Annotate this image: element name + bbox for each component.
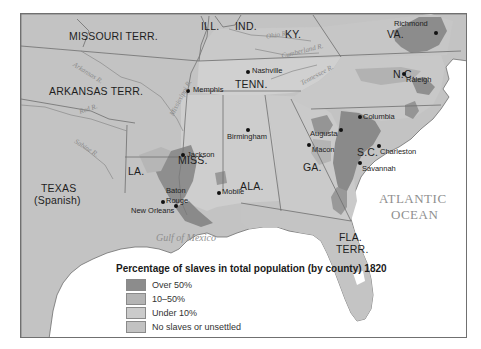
region-florida (241, 203, 373, 321)
city-columbia: Columbia (363, 113, 395, 121)
label-texas-spanish: (Spanish) (34, 195, 81, 206)
legend-label: Under 10% (152, 308, 197, 318)
city-memphis: Memphis (193, 86, 223, 94)
city-birmingham: Birmingham (227, 133, 267, 141)
city-dot-columbia (358, 115, 362, 119)
region-over50-alabama (215, 171, 227, 185)
legend-swatch-10-50 (126, 293, 146, 305)
label-georgia: GA. (303, 162, 322, 173)
label-atlantic: ATLANTIC (379, 191, 447, 207)
city-dot-new-orleans (174, 204, 178, 208)
city-charleston: Charleston (380, 148, 416, 156)
legend-label: Over 50% (152, 280, 192, 290)
map-frame: MISSOURI TERR. ILL. IND. KY. VA. ARKANSA… (20, 13, 467, 338)
legend-label: 10–50% (152, 294, 185, 304)
city-new-orleans: New Orleans (131, 207, 174, 215)
legend-swatch-under-10 (126, 307, 146, 319)
city-jackson: Jackson (187, 151, 215, 159)
city-macon: Macon (312, 146, 335, 154)
legend-swatch-over-50 (126, 279, 146, 291)
label-louisiana: LA. (128, 166, 144, 177)
label-illinois: ILL. (201, 21, 219, 32)
label-florida: FLA. (339, 232, 362, 243)
label-ocean: OCEAN (391, 207, 438, 223)
legend-title: Percentage of slaves in total population… (116, 263, 387, 274)
label-arkansas-terr: ARKANSAS TERR. (49, 86, 143, 97)
label-tennessee: TENN. (235, 79, 268, 90)
city-dot-macon (307, 143, 311, 147)
city-dot-baton-rouge (161, 200, 165, 204)
city-augusta: Augusta (310, 130, 338, 138)
city-nashville: Nashville (252, 67, 282, 75)
city-raleigh: Raleigh (406, 76, 431, 84)
label-gulf-of-mexico: Gulf of Mexico (156, 232, 216, 243)
city-richmond: Richmond (394, 20, 428, 28)
city-dot-jackson (181, 153, 185, 157)
label-indiana: IND. (235, 21, 257, 32)
legend-label: No slaves or unsettled (152, 322, 241, 332)
city-savannah: Savannah (362, 165, 396, 173)
label-texas: TEXAS (41, 183, 76, 194)
city-dot-mobile (217, 191, 221, 195)
city-dot-augusta (339, 128, 343, 132)
label-virginia: VA. (387, 29, 404, 40)
label-south-carolina: S.C. (357, 147, 378, 158)
legend-swatch-no-slaves (126, 321, 146, 333)
label-missouri-terr: MISSOURI TERR. (69, 31, 158, 42)
map-graphic (21, 14, 467, 338)
city-dot-nashville (246, 70, 250, 74)
city-baton-rouge-1: Baton (166, 187, 186, 195)
city-mobile: Mobile (222, 188, 244, 196)
label-florida-terr: TERR. (336, 244, 369, 255)
city-dot-richmond (434, 31, 438, 35)
